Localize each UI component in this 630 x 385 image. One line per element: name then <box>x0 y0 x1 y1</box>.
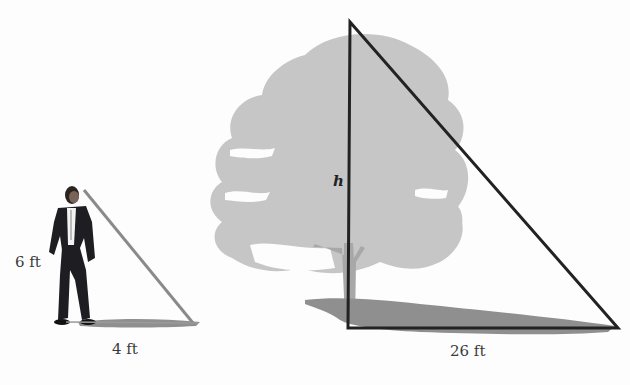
person-shadow-label: 4 ft <box>112 340 138 358</box>
person-hypotenuse <box>84 190 193 323</box>
tree-height-label: h <box>333 172 344 190</box>
person-base <box>66 322 198 323</box>
person-figure <box>49 186 96 325</box>
person-height-label: 6 ft <box>15 253 41 271</box>
figure-canvas <box>0 0 630 385</box>
similar-triangles-figure: 6 ft 4 ft h 26 ft <box>0 0 630 385</box>
tree-shadow-label: 26 ft <box>450 342 485 360</box>
